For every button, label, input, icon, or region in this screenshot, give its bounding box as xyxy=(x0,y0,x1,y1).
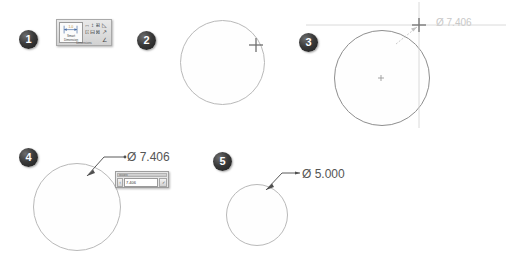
check-button-icon[interactable]: ✓ xyxy=(159,178,167,187)
step4-sketch-circle[interactable] xyxy=(33,163,121,251)
figure-canvas: 1 1.0 Smart Dimension ↔ ↕ ⊞ ⊡ ⊟ ⊠ ◺ ↗ ∠ xyxy=(0,0,506,260)
svg-text:1.0: 1.0 xyxy=(68,25,73,29)
step3-dimension-preview: Ø 7.406 xyxy=(436,17,472,28)
modify-value-input[interactable]: 7.406 xyxy=(124,178,158,187)
horizontal-ordinate-icon[interactable]: ⊟ xyxy=(90,29,94,35)
modify-dialog[interactable]: Modify ↕ 7.406 ✓ xyxy=(115,171,169,188)
toolbar-caption: Dimensions xyxy=(57,41,111,45)
dimension-tool-grid[interactable]: ↔ ↕ ⊞ ⊡ ⊟ ⊠ xyxy=(83,22,100,43)
step3-crosshair-cursor-icon xyxy=(412,18,426,32)
step5-sketch-circle[interactable] xyxy=(226,184,288,246)
step-badge-4: 4 xyxy=(19,148,38,167)
step-badge-5: 5 xyxy=(213,152,232,171)
modify-dialog-title: Modify xyxy=(117,173,167,177)
modify-dialog-body: ↕ 7.406 ✓ xyxy=(117,178,167,187)
chamfer-dimension-icon[interactable]: ◺ xyxy=(100,22,109,28)
step5-dimension-label: Ø 5.000 xyxy=(302,167,345,181)
path-length-dimension-icon[interactable]: ↗ xyxy=(100,29,109,35)
smart-dimension-button[interactable]: 1.0 Smart Dimension xyxy=(59,22,83,43)
vertical-dimension-icon[interactable]: ↕ xyxy=(90,22,94,28)
step3-sketch-circle[interactable] xyxy=(334,30,430,126)
spinner-icon[interactable]: ↕ xyxy=(117,178,123,187)
smart-dimension-toolbar[interactable]: 1.0 Smart Dimension ↔ ↕ ⊞ ⊡ ⊟ ⊠ ◺ ↗ ∠ Di… xyxy=(56,19,112,46)
step2-sketch-circle[interactable] xyxy=(180,20,265,105)
horizontal-dimension-icon[interactable]: ↔ xyxy=(85,22,89,28)
step-badge-2: 2 xyxy=(137,31,156,50)
step4-dimension-label: Ø 7.406 xyxy=(127,150,170,164)
ordinate-dimension-icon[interactable]: ⊡ xyxy=(85,29,89,35)
step-badge-3: 3 xyxy=(299,33,318,52)
step-badge-1: 1 xyxy=(19,30,38,49)
dimension-tool-column[interactable]: ◺ ↗ ∠ xyxy=(100,22,109,43)
